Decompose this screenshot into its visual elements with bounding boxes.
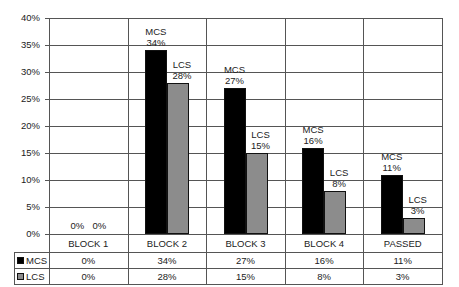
bar-lcs bbox=[324, 191, 346, 234]
legend-key-lcs bbox=[17, 273, 24, 280]
y-tick-label: 35% bbox=[0, 39, 40, 50]
category-label: BLOCK 1 bbox=[49, 236, 128, 252]
bar-mcs bbox=[224, 88, 246, 234]
table-line bbox=[14, 284, 442, 285]
gridline bbox=[49, 45, 442, 46]
data-label-value: 3% bbox=[403, 205, 433, 216]
data-label-value: 27% bbox=[220, 75, 250, 86]
data-label-series: LCS bbox=[167, 59, 197, 70]
gridline bbox=[49, 126, 442, 127]
bar-mcs bbox=[302, 148, 324, 234]
data-label-series: MCS bbox=[377, 151, 407, 162]
bar-mcs bbox=[381, 175, 403, 234]
table-cell: 11% bbox=[363, 253, 442, 268]
category-label: PASSED bbox=[363, 236, 442, 252]
table-left-border bbox=[14, 252, 15, 285]
data-label-series: LCS bbox=[403, 194, 433, 205]
data-label-value: 0% bbox=[84, 220, 114, 231]
category-divider bbox=[442, 18, 443, 285]
y-tick-label: 20% bbox=[0, 120, 40, 131]
y-tick-label: 15% bbox=[0, 147, 40, 158]
bar-chart: 0%5%10%15%20%25%30%35%40%0%0%MCS34%LCS28… bbox=[0, 0, 459, 287]
table-cell: 16% bbox=[285, 253, 364, 268]
y-tick-label: 40% bbox=[0, 12, 40, 23]
table-cell: 8% bbox=[285, 269, 364, 284]
bar-lcs bbox=[403, 218, 425, 234]
legend-label: MCS bbox=[26, 253, 48, 268]
data-label-series: MCS bbox=[141, 26, 171, 37]
data-label-value: 11% bbox=[377, 162, 407, 173]
bar-mcs bbox=[145, 50, 167, 234]
gridline bbox=[49, 18, 442, 19]
data-label-series: MCS bbox=[220, 64, 250, 75]
table-cell: 28% bbox=[128, 269, 207, 284]
category-label: BLOCK 4 bbox=[285, 236, 364, 252]
data-label-series: MCS bbox=[298, 124, 328, 135]
data-label-value: 16% bbox=[298, 135, 328, 146]
y-tick-label: 5% bbox=[0, 201, 40, 212]
table-cell: 27% bbox=[206, 253, 285, 268]
category-label: BLOCK 3 bbox=[206, 236, 285, 252]
legend-key-mcs bbox=[17, 257, 24, 264]
table-cell: 15% bbox=[206, 269, 285, 284]
data-label-value: 34% bbox=[141, 37, 171, 48]
bar-lcs bbox=[246, 153, 268, 234]
y-tick-label: 10% bbox=[0, 174, 40, 185]
x-axis-line bbox=[49, 234, 442, 235]
category-label: BLOCK 2 bbox=[128, 236, 207, 252]
data-label-value: 28% bbox=[167, 70, 197, 81]
gridline bbox=[49, 99, 442, 100]
legend-label: LCS bbox=[26, 269, 48, 284]
bar-lcs bbox=[167, 83, 189, 234]
table-cell: 0% bbox=[49, 253, 128, 268]
data-label-series: LCS bbox=[246, 129, 276, 140]
table-cell: 3% bbox=[363, 269, 442, 284]
y-tick-label: 30% bbox=[0, 66, 40, 77]
table-cell: 34% bbox=[128, 253, 207, 268]
table-cell: 0% bbox=[49, 269, 128, 284]
y-tick-label: 0% bbox=[0, 228, 40, 239]
y-tick-label: 25% bbox=[0, 93, 40, 104]
data-label-value: 8% bbox=[324, 178, 354, 189]
data-label-series: LCS bbox=[324, 167, 354, 178]
data-label-value: 15% bbox=[246, 140, 276, 151]
